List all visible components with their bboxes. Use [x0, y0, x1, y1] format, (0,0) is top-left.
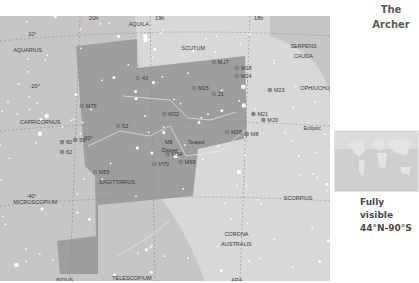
constellation-title: The Archer — [365, 2, 417, 32]
constellation-label: SCORPIUS — [284, 195, 313, 201]
star — [292, 266, 294, 268]
deep-sky-marker — [212, 60, 216, 64]
star — [134, 90, 137, 93]
deep-sky-marker — [162, 112, 166, 116]
asterism-label: M8 — [165, 139, 173, 145]
star — [77, 193, 79, 195]
star — [7, 101, 9, 103]
deep-sky-marker — [93, 170, 97, 174]
constellation-label: CORONA — [224, 231, 248, 237]
star — [244, 155, 246, 157]
deep-sky-object-label: M18 — [241, 65, 252, 71]
star — [137, 252, 139, 254]
star — [220, 109, 223, 112]
star — [101, 79, 103, 81]
star — [1, 110, 3, 112]
deep-sky-marker — [268, 88, 272, 92]
ra-label: 20h — [89, 16, 98, 21]
visibility-range: 44°N-90°S — [360, 222, 417, 235]
star — [80, 29, 82, 31]
constellation-label: AQUARIUS — [13, 47, 42, 53]
star — [136, 146, 139, 149]
star — [88, 218, 91, 221]
star — [151, 245, 153, 247]
deep-sky-object-label: 52 — [122, 123, 128, 129]
star — [0, 179, 2, 181]
star — [198, 121, 201, 124]
star — [238, 100, 240, 102]
star — [16, 113, 18, 115]
deep-sky-marker — [136, 76, 140, 80]
deep-sky-marker — [80, 104, 84, 108]
star — [150, 246, 152, 248]
star — [82, 122, 84, 124]
star — [248, 260, 250, 262]
star — [217, 145, 219, 147]
star — [18, 83, 20, 85]
star — [62, 126, 64, 128]
title-line-2: Archer — [365, 17, 417, 32]
star — [316, 177, 318, 179]
star — [35, 142, 37, 144]
star — [292, 106, 294, 108]
star — [110, 163, 112, 165]
constellation-label: TELESCOPIUM — [112, 275, 152, 281]
star — [284, 132, 286, 134]
star — [187, 257, 189, 259]
star — [236, 185, 238, 187]
constellation-label: ARA — [231, 277, 243, 281]
star — [224, 203, 226, 205]
star — [127, 64, 129, 66]
deep-sky-marker — [235, 66, 239, 70]
star — [242, 103, 246, 107]
star — [36, 102, 38, 104]
star — [246, 185, 248, 187]
deep-sky-object-label: M55 — [99, 169, 110, 175]
constellation-label: SCUTUM — [182, 45, 206, 51]
star — [244, 136, 246, 138]
deep-sky-object-label: M69 — [185, 159, 196, 165]
ecliptic-label: Ecliptic — [304, 125, 322, 131]
constellation-label: AUSTRALIS — [221, 241, 252, 247]
star — [44, 59, 46, 61]
star — [112, 76, 115, 79]
star — [162, 76, 164, 78]
star — [164, 255, 166, 257]
star — [5, 223, 7, 225]
deep-sky-object-label: M28 — [231, 129, 242, 135]
dec-label: -20° — [30, 83, 40, 89]
star — [257, 199, 259, 201]
deep-sky-object-label: M17 — [218, 59, 229, 65]
deep-sky-object-label: 59 — [79, 137, 85, 143]
deep-sky-object-label: 60 — [66, 139, 72, 145]
star — [173, 99, 175, 101]
star — [311, 228, 313, 230]
deep-sky-object-label: M8 — [251, 131, 259, 137]
star — [314, 101, 316, 103]
ra-label: 19h — [155, 16, 164, 21]
star — [217, 246, 219, 248]
star — [135, 97, 138, 100]
deep-sky-object-label: M23 — [274, 87, 285, 93]
star — [201, 117, 203, 119]
deep-sky-marker — [179, 160, 183, 164]
star — [239, 43, 241, 45]
star — [316, 151, 318, 153]
deep-sky-marker — [73, 138, 77, 142]
star — [325, 183, 328, 186]
constellation-label: INDUS — [56, 277, 73, 281]
star — [298, 155, 300, 157]
deep-sky-marker — [212, 92, 216, 96]
constellation-label: CAUDA — [294, 53, 314, 59]
constellation-label: SERPENS — [290, 43, 317, 49]
deep-sky-marker — [116, 124, 120, 128]
world-map-thumbnail — [334, 130, 419, 192]
ra-label: 18h — [254, 16, 263, 21]
star — [9, 157, 11, 159]
deep-sky-object-label: M70 — [158, 161, 169, 167]
star-chart: 20h19h18h-10°-20°-30°-40°AQUARIUSAQUILAS… — [0, 16, 330, 281]
constellation-label: SAGITTARIUS — [99, 179, 136, 185]
star — [150, 151, 153, 154]
star — [327, 239, 330, 242]
deep-sky-object-label: 21 — [218, 91, 224, 97]
